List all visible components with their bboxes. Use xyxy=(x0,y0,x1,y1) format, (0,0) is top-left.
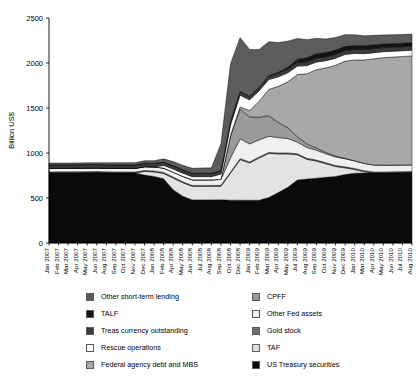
chart-container: 05001000150020002500Billion US$Jan 2007F… xyxy=(0,0,420,376)
legend-item[interactable]: Federal agency debt and MBS xyxy=(86,356,198,373)
x-tick-label: Nov 2009 xyxy=(330,247,337,274)
y-tick-label: 1500 xyxy=(26,104,43,113)
legend-item[interactable]: Treas currency outstanding xyxy=(86,322,198,339)
legend-item[interactable]: US Treasury securities xyxy=(252,356,339,373)
x-tick-label: Aug 2008 xyxy=(205,247,212,274)
x-tick-label: Oct 2009 xyxy=(320,247,327,273)
legend-column-left: Other short-term lendingTALFTreas curren… xyxy=(86,288,198,373)
x-tick-label: Oct 2008 xyxy=(225,247,232,273)
legend-item-label: US Treasury securities xyxy=(267,361,339,368)
x-tick-label: Jun 2008 xyxy=(186,247,193,273)
x-tick-label: Feb 2008 xyxy=(158,247,165,274)
x-tick-label: Apr 2009 xyxy=(272,247,279,273)
x-tick-label: Apr 2008 xyxy=(167,247,174,273)
y-tick-label: 2500 xyxy=(26,14,43,23)
legend-swatch-icon xyxy=(86,327,94,335)
legend-item[interactable]: Gold stock xyxy=(252,322,339,339)
x-tick-label: Dec 2009 xyxy=(339,247,346,274)
legend-item-label: TALF xyxy=(101,310,118,317)
y-tick-label: 2000 xyxy=(26,59,43,68)
x-tick-label: Nov 2007 xyxy=(129,247,136,274)
legend-item-label: Other Fed assets xyxy=(267,310,322,317)
x-tick-label: Sep 2007 xyxy=(110,247,117,274)
legend-swatch-icon xyxy=(252,327,260,335)
y-tick-label: 1000 xyxy=(26,149,43,158)
legend-item[interactable]: Rescue operations xyxy=(86,339,198,356)
x-tick-label: Aug 2009 xyxy=(301,247,308,274)
legend-item-label: CPFF xyxy=(267,293,286,300)
legend-swatch-icon xyxy=(86,293,94,301)
legend-swatch-icon xyxy=(252,344,260,352)
x-tick-label: Aug 2010 xyxy=(406,247,413,274)
x-tick-label: May 2007 xyxy=(81,247,88,275)
x-tick-label: Feb 2007 xyxy=(53,247,60,274)
x-tick-label: May 2008 xyxy=(177,247,184,275)
x-tick-label: Mar 2010 xyxy=(358,247,365,274)
legend-item-label: TAF xyxy=(267,344,280,351)
x-tick-label: Dec 2007 xyxy=(139,247,146,274)
y-axis-label: Billion US$ xyxy=(7,111,16,149)
stacked-area-chart: 05001000150020002500Billion US$Jan 2007F… xyxy=(0,0,420,290)
legend-swatch-icon xyxy=(86,344,94,352)
legend-item[interactable]: TALF xyxy=(86,305,198,322)
x-tick-label: Jan 2009 xyxy=(244,247,251,273)
x-tick-label: May 2010 xyxy=(377,247,384,275)
x-tick-label: Sep 2008 xyxy=(215,247,222,274)
legend-item[interactable]: Other Fed assets xyxy=(252,305,339,322)
x-tick-label: Jun 2007 xyxy=(91,247,98,273)
chart-legend: Other short-term lendingTALFTreas curren… xyxy=(0,288,420,376)
x-tick-label: Jun 2010 xyxy=(387,247,394,273)
legend-item-label: Treas currency outstanding xyxy=(101,327,188,334)
legend-swatch-icon xyxy=(252,310,260,318)
legend-swatch-icon xyxy=(252,361,260,369)
x-tick-label: Oct 2007 xyxy=(119,247,126,273)
legend-item[interactable]: TAF xyxy=(252,339,339,356)
legend-swatch-icon xyxy=(86,361,94,369)
x-tick-label: Feb 2009 xyxy=(253,247,260,274)
x-tick-label: Sep 2009 xyxy=(310,247,317,274)
x-tick-label: Jul 2010 xyxy=(396,247,403,271)
legend-item[interactable]: Other short-term lending xyxy=(86,288,198,305)
x-tick-label: Jan 2010 xyxy=(349,247,356,273)
x-tick-label: Mar 2009 xyxy=(263,247,270,274)
x-tick-label: Aug 2007 xyxy=(100,247,107,274)
x-tick-label: Mar 2007 xyxy=(62,247,69,274)
legend-item-label: Rescue operations xyxy=(101,344,161,351)
legend-swatch-icon xyxy=(86,310,94,318)
x-tick-label: Jan 2007 xyxy=(43,247,50,273)
legend-item-label: Other short-term lending xyxy=(101,293,179,300)
x-tick-label: May 2009 xyxy=(282,247,289,275)
legend-column-right: CPFFOther Fed assetsGold stockTAFUS Trea… xyxy=(252,288,339,373)
y-tick-label: 500 xyxy=(30,194,43,203)
legend-swatch-icon xyxy=(252,293,260,301)
legend-item[interactable]: CPFF xyxy=(252,288,339,305)
x-tick-label: Jul 2008 xyxy=(196,247,203,271)
legend-item-label: Federal agency debt and MBS xyxy=(101,361,198,368)
x-tick-label: Apr 2007 xyxy=(72,247,79,273)
y-tick-label: 0 xyxy=(39,239,43,248)
x-tick-label: Apr 2010 xyxy=(368,247,375,273)
x-tick-label: Dec 2008 xyxy=(234,247,241,274)
x-tick-label: Jan 2008 xyxy=(148,247,155,273)
legend-item-label: Gold stock xyxy=(267,327,301,334)
x-tick-label: Jul 2009 xyxy=(291,247,298,271)
